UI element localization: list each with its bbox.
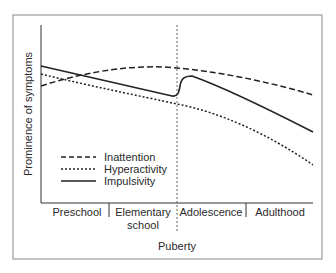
legend-label-impulsivity: Impulsivity [104,175,156,187]
legend: Inattention Hyperactivity Impulsivity [61,151,167,187]
y-axis-label: Prominence of symptoms [22,51,34,176]
series-hyperactivity-line [41,74,313,165]
legend-label-inattention: Inattention [104,151,155,163]
stage-label-school: school [127,219,159,231]
figure-frame [13,15,322,259]
stage-label-preschool: Preschool [53,206,102,218]
stage-label-adolescence: Adolescence [180,206,243,218]
legend-label-hyperactivity: Hyperactivity [104,163,167,175]
x-axis-label-puberty: Puberty [158,240,196,252]
stage-label-elementary: Elementary [115,206,171,218]
chart-figure: Inattention Hyperactivity Impulsivity Pr… [0,0,336,273]
stage-label-adulthood: Adulthood [255,206,305,218]
